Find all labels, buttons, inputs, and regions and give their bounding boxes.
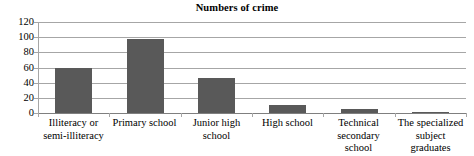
gridline-20 bbox=[38, 98, 466, 99]
gridline-100 bbox=[38, 37, 466, 38]
chart-title: Numbers of crime bbox=[0, 1, 474, 14]
x-category-label: Illiteracy orsemi-illiteracy bbox=[38, 117, 109, 142]
x-category-label: Technicalsecondary school bbox=[323, 117, 394, 155]
gridline-40 bbox=[38, 83, 466, 84]
x-axis-category-labels: Illiteracy orsemi-illiteracyPrimary scho… bbox=[38, 117, 466, 153]
x-category-label-line: High school bbox=[252, 117, 323, 130]
x-category-label-line: subject graduates bbox=[395, 130, 466, 155]
gridline-60 bbox=[38, 68, 466, 69]
bar bbox=[127, 39, 164, 113]
bar-chart: Numbers of crime 020406080100120 Illiter… bbox=[0, 0, 474, 156]
x-tick-mark bbox=[466, 113, 467, 117]
x-category-label-line: secondary school bbox=[323, 130, 394, 155]
bar bbox=[55, 68, 92, 113]
y-tick-label: 40 bbox=[2, 78, 34, 88]
bar bbox=[269, 105, 306, 113]
plot-area bbox=[38, 22, 466, 113]
y-tick-label: 120 bbox=[2, 17, 34, 27]
x-category-label-line: Junior high bbox=[181, 117, 252, 130]
gridline-80 bbox=[38, 52, 466, 53]
x-category-label-line: Primary school bbox=[109, 117, 180, 130]
x-category-label-line: school bbox=[181, 130, 252, 143]
x-category-label: Junior highschool bbox=[181, 117, 252, 142]
x-category-label-line: The specialized bbox=[395, 117, 466, 130]
y-tick-label: 100 bbox=[2, 32, 34, 42]
x-category-label-line: Illiteracy or bbox=[38, 117, 109, 130]
y-tick-label: 0 bbox=[2, 108, 34, 118]
x-category-label-line: Technical bbox=[323, 117, 394, 130]
x-category-label: The specializedsubject graduates bbox=[395, 117, 466, 155]
y-tick-label: 20 bbox=[2, 93, 34, 103]
x-category-label: High school bbox=[252, 117, 323, 130]
y-axis-tick-labels: 020406080100120 bbox=[0, 0, 34, 156]
bar bbox=[198, 78, 235, 113]
y-tick-label: 80 bbox=[2, 47, 34, 57]
gridline-120 bbox=[38, 22, 466, 23]
x-category-label: Primary school bbox=[109, 117, 180, 130]
y-tick-label: 60 bbox=[2, 63, 34, 73]
x-category-label-line: semi-illiteracy bbox=[38, 130, 109, 143]
